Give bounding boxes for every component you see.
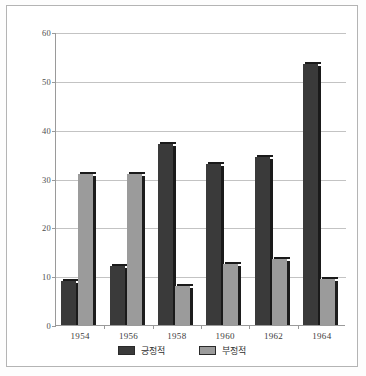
x-tick-mark-1: [153, 325, 154, 329]
bar-top-edge: [129, 172, 145, 174]
bar-side-shadow: [190, 288, 193, 325]
bar-group-1960: [206, 32, 238, 325]
x-tick-mark-2: [201, 325, 202, 329]
bar-side-shadow: [335, 281, 338, 325]
bar-top-edge: [80, 172, 96, 174]
bar-1962-positive: [255, 157, 270, 325]
legend-label: 긍정적: [141, 344, 165, 357]
bar-body: [175, 286, 190, 325]
x-tick-label-1964: 1964: [312, 331, 331, 341]
chart-figure: 0102030405060 195419561958196019621964 긍…: [0, 0, 366, 376]
y-tick-label-20: 20: [42, 223, 51, 233]
bar-side-shadow: [238, 266, 241, 325]
bar-top-edge: [160, 142, 176, 144]
bar-group-1958: [158, 32, 190, 325]
bar-top-edge: [63, 279, 79, 281]
x-tick-label-1960: 1960: [216, 331, 235, 341]
y-tick-label-50: 50: [42, 77, 51, 87]
bar-side-shadow: [287, 261, 290, 325]
x-tick-label-1956: 1956: [119, 331, 138, 341]
bar-top-edge: [322, 277, 338, 279]
legend-item-negative: 부정적: [199, 344, 246, 357]
bar-top-edge: [112, 264, 128, 266]
bar-group-1954: [61, 32, 93, 325]
bar-1954-negative: [78, 174, 93, 325]
bar-side-shadow: [93, 176, 96, 325]
bar-body: [127, 174, 142, 325]
bar-body: [110, 266, 125, 325]
bar-side-shadow: [142, 176, 145, 325]
y-tick-label-10: 10: [42, 272, 51, 282]
legend-item-positive: 긍정적: [118, 344, 165, 357]
bar-1960-positive: [206, 164, 221, 325]
chart-frame: 0102030405060 195419561958196019621964 긍…: [6, 5, 358, 367]
bar-1962-negative: [272, 259, 287, 325]
bar-body: [158, 144, 173, 325]
y-tick-label-60: 60: [42, 28, 51, 38]
bar-1964-negative: [320, 279, 335, 325]
bar-body: [206, 164, 221, 325]
bar-body: [303, 64, 318, 325]
y-tick-label-30: 30: [42, 175, 51, 185]
bar-body: [61, 281, 76, 325]
bar-1958-positive: [158, 144, 173, 325]
bar-group-1956: [110, 32, 142, 325]
bar-group-1964: [303, 32, 335, 325]
y-tick-mark-0: [52, 326, 56, 327]
legend-label: 부정적: [222, 344, 246, 357]
chart-legend: 긍정적부정적: [7, 344, 357, 357]
bar-top-edge: [305, 62, 321, 64]
bar-top-edge: [208, 162, 224, 164]
bar-body: [78, 174, 93, 325]
bar-body: [255, 157, 270, 325]
bar-1956-positive: [110, 266, 125, 325]
bar-1954-positive: [61, 281, 76, 325]
bar-1956-negative: [127, 174, 142, 325]
bar-top-edge: [274, 257, 290, 259]
bar-body: [272, 259, 287, 325]
bar-series-container: [56, 32, 346, 325]
plot-area: 0102030405060 195419561958196019621964: [55, 33, 345, 326]
bar-group-1962: [255, 32, 287, 325]
y-tick-label-40: 40: [42, 126, 51, 136]
x-tick-label-1958: 1958: [167, 331, 186, 341]
y-tick-label-0: 0: [47, 321, 51, 331]
bar-top-edge: [257, 155, 273, 157]
bar-body: [223, 264, 238, 325]
bar-1958-negative: [175, 286, 190, 325]
bar-top-edge: [225, 262, 241, 264]
x-tick-label-1954: 1954: [71, 331, 90, 341]
bar-1964-positive: [303, 64, 318, 325]
x-tick-label-1962: 1962: [264, 331, 283, 341]
x-tick-mark-3: [249, 325, 250, 329]
bar-top-edge: [177, 284, 193, 286]
x-tick-mark-0: [104, 325, 105, 329]
bar-body: [320, 279, 335, 325]
bar-1960-negative: [223, 264, 238, 325]
legend-swatch-icon: [199, 346, 216, 355]
legend-swatch-icon: [118, 346, 135, 355]
x-tick-mark-4: [298, 325, 299, 329]
